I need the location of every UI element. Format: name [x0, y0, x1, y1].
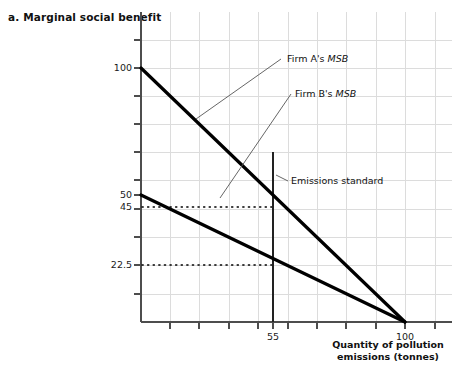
- y-tick-label-50: 50: [104, 189, 132, 200]
- annotation-firm-a-prefix: Firm A's: [287, 53, 328, 64]
- y-tick-label-22-5: 22.5: [92, 259, 132, 270]
- chart-figure: a.Marginal social benefit: [0, 0, 461, 377]
- x-axis-title-line1: Quantity of pollution: [318, 339, 458, 351]
- annotation-firm-a-msb-abbr: MSB: [328, 53, 349, 64]
- plot-area: [0, 0, 461, 377]
- leader-lines: [196, 59, 291, 198]
- y-tick-label-100: 100: [104, 62, 132, 73]
- leader-firm-b: [220, 94, 291, 198]
- y-tick-label-45: 45: [104, 201, 132, 212]
- x-tick-label-55: 55: [258, 331, 288, 342]
- annotation-firm-b-msb-abbr: MSB: [336, 88, 357, 99]
- dotted-guides: [142, 207, 273, 265]
- annotation-firm-b-msb: Firm B's MSB: [295, 88, 356, 99]
- x-axis-title: Quantity of pollution emissions (tonnes): [318, 339, 458, 363]
- annotation-firm-a-msb: Firm A's MSB: [287, 53, 348, 64]
- annotation-emissions-standard: Emissions standard: [291, 175, 383, 186]
- x-axis-title-line2: emissions (tonnes): [318, 351, 458, 363]
- x-axis-ticks: [170, 322, 435, 329]
- y-axis-ticks: [134, 40, 141, 294]
- annotation-firm-b-prefix: Firm B's: [295, 88, 336, 99]
